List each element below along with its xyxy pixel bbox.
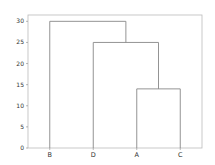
leaf-label: D (91, 151, 96, 159)
dendrogram-link (93, 42, 158, 148)
leaf-label: C (178, 151, 183, 159)
dendrogram-chart: 051015202530 BDAC (0, 0, 215, 165)
y-tick-label: 10 (16, 102, 24, 109)
y-tick-label: 15 (16, 81, 24, 88)
y-tick-label: 0 (20, 144, 24, 151)
y-tick-label: 20 (16, 60, 24, 67)
y-tick-label: 30 (16, 17, 24, 24)
y-tick-label: 5 (20, 123, 24, 130)
plot-area-frame (28, 15, 202, 148)
x-axis: BDAC (48, 148, 183, 159)
leaf-label: A (135, 151, 140, 159)
leaf-label: B (48, 151, 52, 159)
y-axis: 051015202530 (16, 17, 28, 151)
dendrogram-link (50, 21, 126, 148)
y-tick-label: 25 (16, 38, 24, 45)
dendrogram-link (137, 89, 181, 148)
dendrogram-links (50, 21, 181, 148)
